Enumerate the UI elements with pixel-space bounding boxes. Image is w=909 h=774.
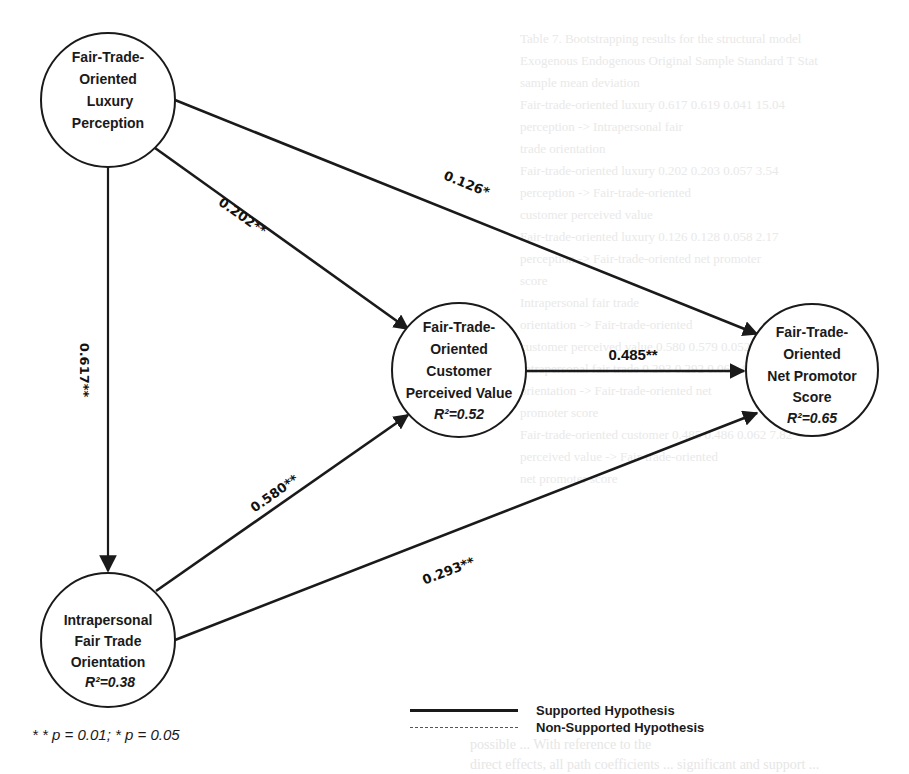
path-luxury-to-nps: 0.126* <box>175 100 757 334</box>
arrow-line <box>155 148 408 329</box>
path-coefficient: 0.617** <box>77 343 92 398</box>
path-intrapersonal-to-nps: 0.293** <box>175 413 757 640</box>
path-cpv-to-nps: 0.485** <box>526 346 744 371</box>
legend-label: Non-Supported Hypothesis <box>536 720 704 735</box>
node-label-line: Fair-Trade- <box>776 324 849 340</box>
dashed-line-swatch <box>410 727 518 728</box>
arrow-line <box>175 413 757 640</box>
node-label-line: Fair Trade <box>75 633 142 649</box>
node-luxury-perception: Fair-Trade- Oriented Luxury Perception <box>41 33 175 167</box>
node-r-squared: R²=0.65 <box>787 410 837 426</box>
node-label-line: Customer <box>426 363 492 379</box>
node-r-squared: R²=0.38 <box>85 674 135 690</box>
node-label-line: Orientation <box>71 654 146 670</box>
node-label-line: Net Promotor <box>767 368 857 384</box>
node-intrapersonal-orientation: Intrapersonal Fair Trade Orientation R²=… <box>41 573 175 707</box>
node-label-line: Oriented <box>430 341 488 357</box>
legend-item-non-supported: Non-Supported Hypothesis <box>410 719 704 736</box>
node-label-line: Intrapersonal <box>64 612 153 628</box>
path-luxury-to-cpv: 0.202** <box>155 148 408 329</box>
node-label-line: Oriented <box>783 346 841 362</box>
node-label-line: Oriented <box>79 71 137 87</box>
node-label-line: Fair-Trade- <box>423 319 496 335</box>
legend-item-supported: Supported Hypothesis <box>410 702 704 719</box>
path-coefficient: 0.485** <box>608 346 657 363</box>
node-label-line: Luxury <box>87 93 134 109</box>
node-label-line: Fair-Trade- <box>72 49 145 65</box>
legend: Supported Hypothesis Non-Supported Hypot… <box>410 702 704 736</box>
legend-label: Supported Hypothesis <box>536 703 675 718</box>
node-label-line: Score <box>793 389 832 405</box>
node-net-promotor-score: Fair-Trade- Oriented Net Promotor Score … <box>746 304 878 436</box>
node-label-line: Perception <box>72 115 144 131</box>
solid-line-swatch <box>410 709 518 712</box>
arrow-line <box>175 100 757 334</box>
node-customer-perceived-value: Fair-Trade- Oriented Customer Perceived … <box>392 303 526 437</box>
path-luxury-to-intrapersonal: 0.617** <box>77 167 108 571</box>
path-coefficient: 0.126* <box>442 168 492 200</box>
node-label-line: Perceived Value <box>406 385 513 401</box>
path-coefficient: 0.293** <box>420 554 477 588</box>
significance-footnote: * * p = 0.01; * p = 0.05 <box>32 726 180 743</box>
path-coefficient: 0.202** <box>216 194 270 238</box>
node-r-squared: R²=0.52 <box>434 406 484 422</box>
path-model-diagram: 0.617** 0.202** 0.126* 0.580** 0.293** 0… <box>0 0 909 774</box>
